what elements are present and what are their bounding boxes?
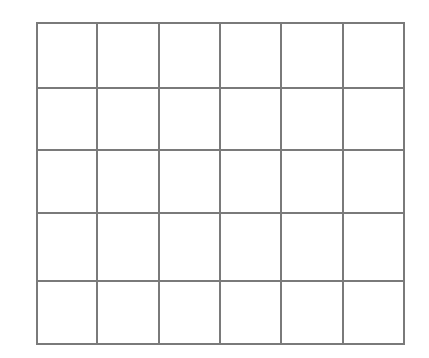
grid-cell-r4-c6 xyxy=(343,213,404,281)
grid-cell-r4-c5 xyxy=(281,213,343,281)
grid-cell-r3-c1 xyxy=(37,150,97,213)
grid-cell-r3-c6 xyxy=(343,150,404,213)
grid-cell-r2-c4 xyxy=(220,88,281,150)
grid-cell-r3-c4 xyxy=(220,150,281,213)
grid-cell-r3-c2 xyxy=(97,150,159,213)
grid-cell-r1-c6 xyxy=(343,23,404,88)
grid-cell-r2-c6 xyxy=(343,88,404,150)
grid-cell-r1-c3 xyxy=(159,23,220,88)
grid-cell-r2-c3 xyxy=(159,88,220,150)
grid-cell-r1-c4 xyxy=(220,23,281,88)
grid-cell-r1-c1 xyxy=(37,23,97,88)
grid-cell-r5-c5 xyxy=(281,281,343,344)
grid-cell-r1-c5 xyxy=(281,23,343,88)
grid-cell-r5-c6 xyxy=(343,281,404,344)
grid-cell-r4-c1 xyxy=(37,213,97,281)
grid-diagram xyxy=(0,0,429,358)
grid-cell-r2-c2 xyxy=(97,88,159,150)
grid-cell-r5-c2 xyxy=(97,281,159,344)
grid-cell-r5-c1 xyxy=(37,281,97,344)
grid-cell-r5-c3 xyxy=(159,281,220,344)
grid-cell-r2-c5 xyxy=(281,88,343,150)
grid-cell-r3-c5 xyxy=(281,150,343,213)
grid-cell-r3-c3 xyxy=(159,150,220,213)
grid-cell-r4-c2 xyxy=(97,213,159,281)
grid-cell-r2-c1 xyxy=(37,88,97,150)
grid-cell-r4-c4 xyxy=(220,213,281,281)
grid-cell-r5-c4 xyxy=(220,281,281,344)
grid-cell-r1-c2 xyxy=(97,23,159,88)
grid-cell-r4-c3 xyxy=(159,213,220,281)
